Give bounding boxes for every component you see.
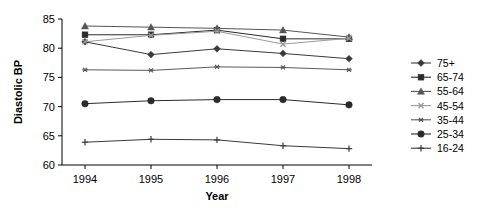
legend-item[interactable]: 45-54: [411, 100, 464, 112]
legend-item[interactable]: 65-74: [411, 71, 464, 83]
chart-legend: 75+65-7455-6445-5435-4425-3416-24: [411, 57, 464, 154]
x-tick-label: 1994: [73, 173, 97, 185]
chart-canvas: 60657075808519941995199619971998YearDias…: [0, 0, 490, 214]
legend-item-label: 16-24: [437, 142, 464, 154]
x-tick-label: 1997: [271, 173, 295, 185]
y-tick-label: 75: [43, 71, 55, 83]
legend-item-label: 45-54: [437, 100, 464, 112]
legend-item-label: 25-34: [437, 128, 464, 140]
legend-item-label: 75+: [437, 57, 455, 69]
legend-item[interactable]: 25-34: [411, 128, 464, 140]
series-45-54: [82, 29, 351, 47]
legend-item[interactable]: 35-44: [411, 114, 464, 126]
x-tick-label: 1995: [139, 173, 163, 185]
y-tick-label: 80: [43, 42, 55, 54]
legend-item[interactable]: 16-24: [411, 142, 464, 154]
legend-item[interactable]: 55-64: [411, 85, 464, 97]
series-16-24: [82, 136, 352, 152]
legend-item[interactable]: 75+: [411, 57, 455, 69]
legend-item-label: 55-64: [437, 85, 464, 97]
legend-item-label: 35-44: [437, 114, 464, 126]
x-tick-label: 1998: [337, 173, 361, 185]
x-tick-label: 1996: [205, 173, 229, 185]
diastolic-bp-line-chart: 60657075808519941995199619971998YearDias…: [0, 0, 490, 214]
y-axis-ticks: 606570758085: [43, 13, 62, 171]
series-35-44: [82, 65, 352, 72]
x-axis-ticks: 19941995199619971998: [73, 165, 361, 185]
y-tick-label: 70: [43, 101, 55, 113]
x-axis-title: Year: [205, 190, 229, 202]
series-25-34: [82, 96, 353, 108]
legend-item-label: 65-74: [437, 71, 464, 83]
y-tick-label: 60: [43, 159, 55, 171]
chart-axes: [62, 19, 372, 165]
y-tick-label: 85: [43, 13, 55, 25]
y-axis-title: Diastolic BP: [12, 60, 24, 124]
y-tick-label: 65: [43, 130, 55, 142]
